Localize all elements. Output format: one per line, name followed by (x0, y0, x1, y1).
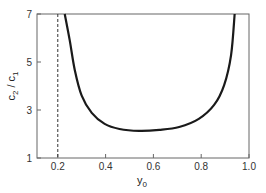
y-tick-label: 3 (26, 105, 32, 116)
x-tick-label: 0.8 (194, 161, 208, 172)
y-tick-label: 1 (26, 153, 32, 164)
x-tick-label: 0.6 (146, 161, 160, 172)
x-tick-label: 0.4 (99, 161, 113, 172)
chart: 0.20.40.60.81.01357 c2 / c1 y0 (0, 0, 266, 193)
y-axis-label: c2 / c1 (5, 71, 20, 101)
x-tick-label: 0.2 (51, 161, 65, 172)
series-group (58, 14, 235, 158)
series-line-c2-c1 (65, 14, 235, 131)
y-tick-label: 5 (26, 57, 32, 68)
y-tick-label: 7 (26, 9, 32, 20)
x-tick-label: 1.0 (242, 161, 256, 172)
x-axis-label: y0 (137, 174, 148, 189)
